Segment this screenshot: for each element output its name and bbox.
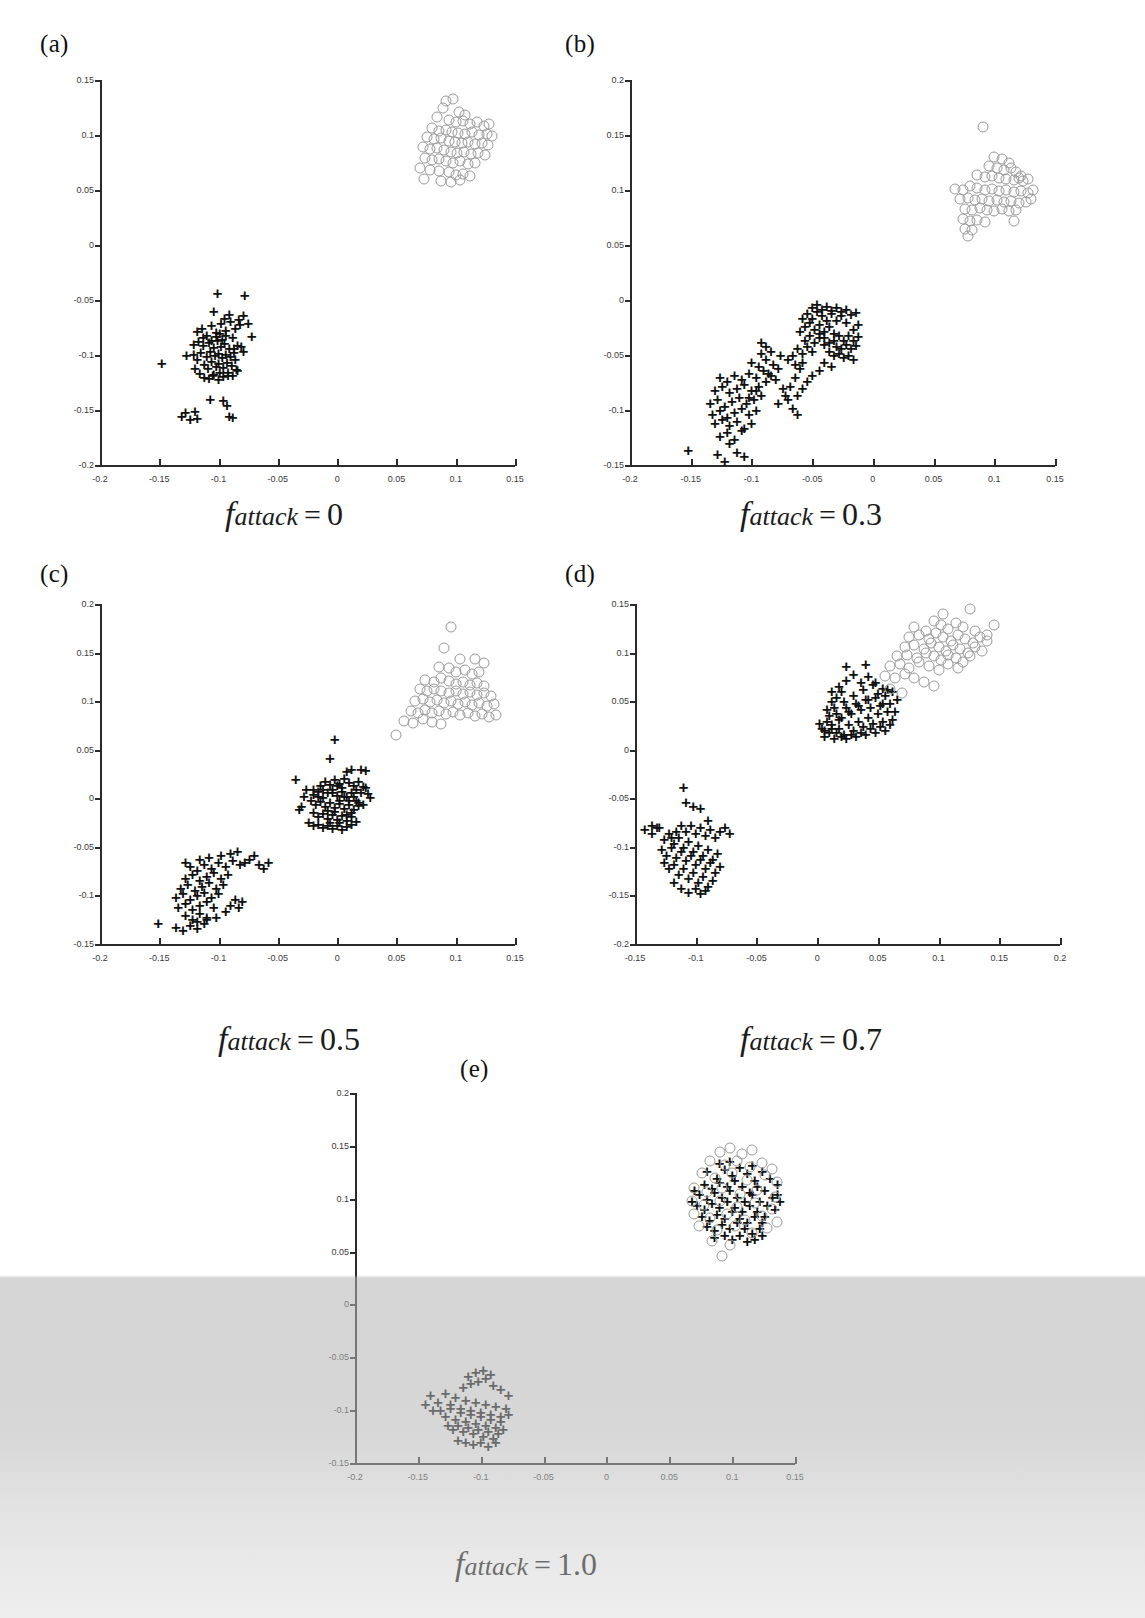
- x-tick-label: -0.2: [622, 474, 638, 484]
- data-point-circle: [694, 1221, 705, 1232]
- x-tick: [630, 459, 632, 466]
- x-tick: [544, 1457, 546, 1464]
- caption-e: fattack=1.0: [455, 1545, 597, 1583]
- data-point-cross: +: [237, 893, 247, 910]
- data-point-cross: +: [221, 327, 231, 344]
- x-tick-label: 0.05: [388, 953, 406, 963]
- data-point-circle: [491, 709, 502, 720]
- caption-d-eq: =: [813, 1023, 842, 1056]
- data-point-cross: +: [861, 656, 871, 673]
- x-tick-label: -0.1: [211, 474, 227, 484]
- x-tick-label: 0.15: [991, 953, 1009, 963]
- caption-b-value: 0.3: [842, 496, 882, 532]
- x-tick: [278, 459, 280, 466]
- data-point-circle: [772, 1216, 783, 1227]
- y-tick-label: 0.2: [309, 1088, 349, 1098]
- y-tick: [625, 80, 632, 82]
- data-point-cross: +: [240, 286, 250, 303]
- data-point-cross: +: [211, 908, 221, 925]
- data-point-cross: +: [703, 811, 713, 828]
- y-axis-line: [635, 604, 637, 944]
- data-point-circle: [480, 149, 491, 160]
- data-point-cross: +: [756, 333, 766, 350]
- x-tick: [1060, 938, 1062, 945]
- x-tick-label: -0.15: [149, 474, 170, 484]
- panel-b-plot: 0.20.150.10.050-0.05-0.1-0.15-0.2-0.15-0…: [630, 80, 1055, 465]
- data-point-circle: [1011, 204, 1022, 215]
- data-point-cross: +: [720, 452, 730, 469]
- data-point-cross: +: [325, 750, 335, 767]
- caption-d-sub: attack: [749, 1027, 813, 1056]
- x-tick: [481, 1457, 483, 1464]
- y-tick: [95, 245, 102, 247]
- y-tick: [625, 135, 632, 137]
- x-tick-label: 0: [870, 474, 875, 484]
- x-tick-label: 0.05: [661, 1472, 679, 1482]
- x-tick-label: -0.05: [746, 953, 767, 963]
- caption-a-sub: attack: [234, 502, 298, 531]
- data-point-cross: +: [428, 1402, 438, 1419]
- y-tick-label: 0.15: [54, 75, 94, 85]
- data-point-circle: [762, 1223, 773, 1234]
- data-point-circle: [897, 688, 908, 699]
- data-point-cross: +: [209, 303, 219, 320]
- y-tick-label: 0.1: [584, 185, 624, 195]
- y-tick-label: 0: [309, 1299, 349, 1309]
- x-tick: [696, 938, 698, 945]
- data-point-cross: +: [503, 1387, 513, 1404]
- data-point-circle: [769, 1191, 780, 1202]
- x-tick-label: 0.1: [726, 1472, 739, 1482]
- y-tick-label: 0.05: [584, 240, 624, 250]
- y-tick-label: -0.05: [309, 1352, 349, 1362]
- data-point-cross: +: [827, 358, 837, 375]
- y-axis-line: [100, 80, 102, 465]
- data-point-circle: [978, 122, 989, 133]
- y-tick: [630, 847, 637, 849]
- x-tick-label: 0.1: [932, 953, 945, 963]
- caption-b-sub: attack: [749, 502, 813, 531]
- y-tick-label: 0: [589, 745, 629, 755]
- data-point-circle: [707, 1236, 718, 1247]
- panel-d-label: (d): [565, 560, 595, 588]
- data-point-circle: [702, 1187, 713, 1198]
- x-tick-label: 0.15: [506, 474, 524, 484]
- y-tick: [630, 750, 637, 752]
- panel-a-plot: 0.150.10.050-0.05-0.1-0.15-0.2-0.2-0.15-…: [100, 80, 515, 465]
- y-tick-label: -0.1: [584, 405, 624, 415]
- y-tick: [625, 300, 632, 302]
- data-point-cross: +: [308, 780, 318, 797]
- x-tick: [355, 1457, 357, 1464]
- caption-b: fattack=0.3: [740, 495, 882, 533]
- data-point-cross: +: [234, 310, 244, 327]
- x-tick-label: -0.15: [408, 1472, 429, 1482]
- data-point-circle: [689, 1183, 700, 1194]
- data-point-cross: +: [848, 351, 858, 368]
- y-tick: [630, 798, 637, 800]
- x-tick: [606, 1457, 608, 1464]
- x-tick: [515, 938, 517, 945]
- y-tick: [630, 895, 637, 897]
- y-tick-label: -0.05: [54, 295, 94, 305]
- y-tick-label: 0: [54, 793, 94, 803]
- data-point-circle: [696, 1168, 707, 1179]
- x-tick-label: -0.05: [268, 474, 289, 484]
- data-point-circle: [979, 216, 990, 227]
- y-tick-label: -0.15: [54, 939, 94, 949]
- panel-c-label: (c): [40, 560, 69, 588]
- y-tick-label: 0.2: [584, 75, 624, 85]
- data-point-circle: [464, 170, 475, 181]
- y-tick: [95, 80, 102, 82]
- data-point-cross: +: [195, 850, 205, 867]
- y-tick: [95, 410, 102, 412]
- data-point-circle: [732, 1155, 743, 1166]
- data-point-cross: +: [330, 731, 340, 748]
- y-tick-label: -0.15: [589, 890, 629, 900]
- data-point-cross: +: [700, 881, 710, 898]
- data-point-circle: [455, 175, 466, 186]
- panel-c: (c) 0.20.150.10.050-0.05-0.1-0.15-0.2-0.…: [40, 560, 550, 970]
- y-tick: [95, 798, 102, 800]
- x-tick-label: -0.15: [625, 953, 646, 963]
- data-point-circle: [744, 1162, 755, 1173]
- x-tick-label: -0.2: [92, 474, 108, 484]
- caption-d: fattack=0.7: [740, 1020, 882, 1058]
